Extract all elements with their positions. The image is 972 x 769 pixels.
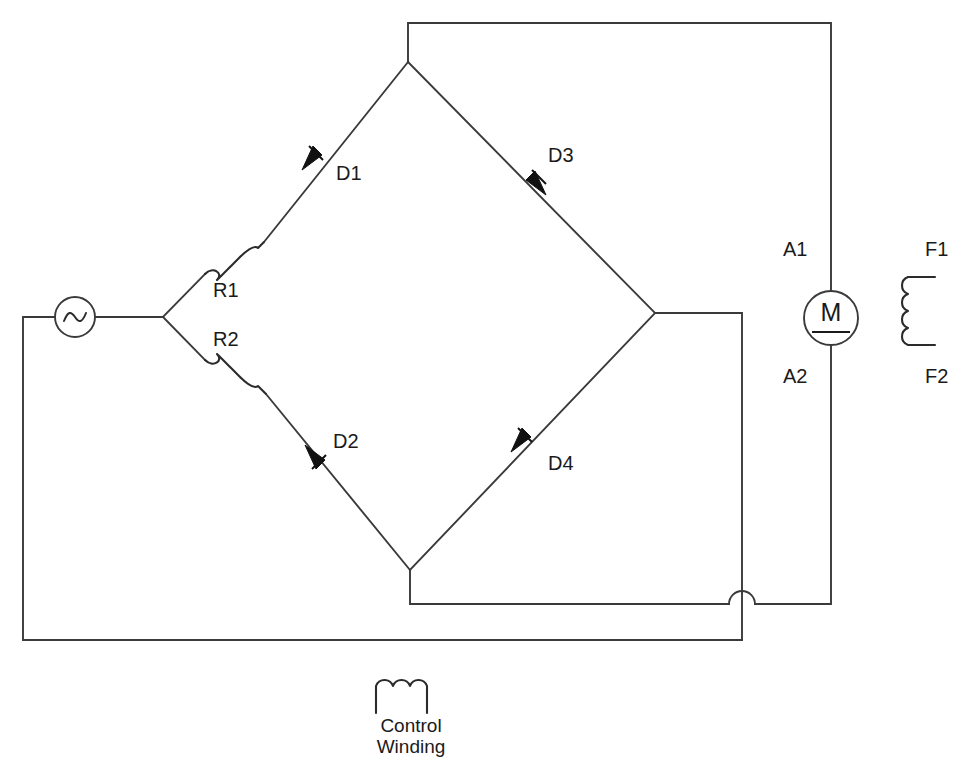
label-d1: D1 — [336, 162, 362, 184]
r2-coil — [205, 354, 266, 394]
wire-right-node-down — [655, 313, 742, 640]
ac-source-sine-icon — [64, 313, 86, 321]
wire-left-rail — [23, 317, 742, 640]
wire-bottom-node-return — [410, 570, 729, 604]
label-a1: A1 — [783, 238, 807, 260]
label-d4: D4 — [548, 452, 574, 474]
motor: M — [804, 291, 858, 345]
d1-diode — [302, 146, 323, 170]
wire-node-to-r2 — [163, 317, 205, 360]
wire-r2-to-bottom-node — [266, 394, 410, 570]
d2-diode — [305, 445, 326, 469]
control-winding — [376, 680, 427, 713]
d4-diode — [511, 428, 532, 452]
ac-source — [55, 297, 95, 337]
wire-r1-to-top-node — [264, 62, 408, 242]
label-d3: D3 — [548, 144, 574, 166]
label-r2: R2 — [213, 328, 239, 350]
label-d2: D2 — [333, 430, 359, 452]
label-f2: F2 — [925, 365, 948, 387]
label-control-winding-line1: Control — [380, 715, 441, 736]
label-a2: A2 — [783, 365, 807, 387]
circuit-svg: M D1 D2 D3 D4 R1 R2 A1 A2 F1 F2 Control … — [0, 0, 972, 769]
circuit-diagram: M D1 D2 D3 D4 R1 R2 A1 A2 F1 F2 Control … — [0, 0, 972, 769]
label-control-winding-line2: Winding — [377, 736, 446, 757]
r1-coil — [205, 242, 264, 280]
label-r1: R1 — [213, 279, 239, 301]
field-winding — [902, 277, 935, 345]
wire-top-to-right-node — [408, 62, 655, 313]
motor-label: M — [821, 298, 842, 326]
label-f1: F1 — [925, 238, 948, 260]
wire-top-rail-to-motor — [408, 23, 831, 291]
wire-node-to-r1 — [163, 274, 205, 317]
